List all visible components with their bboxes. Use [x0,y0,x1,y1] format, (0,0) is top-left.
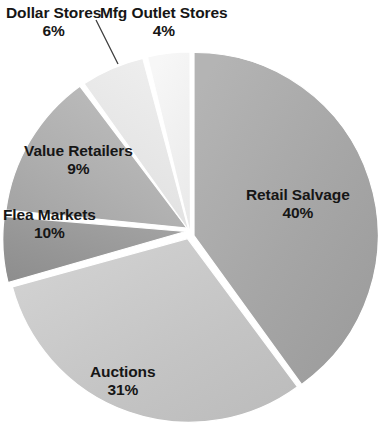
pie-chart: Retail Salvage 40% Auctions 31% Flea Mar… [0,0,386,427]
slice-label-text: Mfg Outlet Stores [100,4,227,21]
slice-label-mfg-outlet-stores: Mfg Outlet Stores 4% [100,4,227,41]
slice-label-flea-markets: Flea Markets 10% [3,206,96,243]
slice-label-text: Retail Salvage [246,186,350,203]
slice-label-auctions: Auctions 31% [90,363,156,400]
slice-label-text: Flea Markets [3,206,96,223]
slice-label-percent: 40% [246,204,350,222]
slice-label-text: Dollar Stores [6,4,101,21]
slice-label-text: Auctions [90,363,156,380]
slice-label-percent: 10% [3,224,96,242]
slice-label-percent: 4% [100,22,227,40]
slice-label-retail-salvage: Retail Salvage 40% [246,186,350,223]
slice-label-value-retailers: Value Retailers 9% [24,142,133,179]
slice-label-dollar-stores: Dollar Stores 6% [6,4,101,41]
slice-label-percent: 31% [90,381,156,399]
slice-label-text: Value Retailers [24,142,133,159]
slice-label-percent: 6% [6,22,101,40]
slice-label-percent: 9% [24,160,133,178]
